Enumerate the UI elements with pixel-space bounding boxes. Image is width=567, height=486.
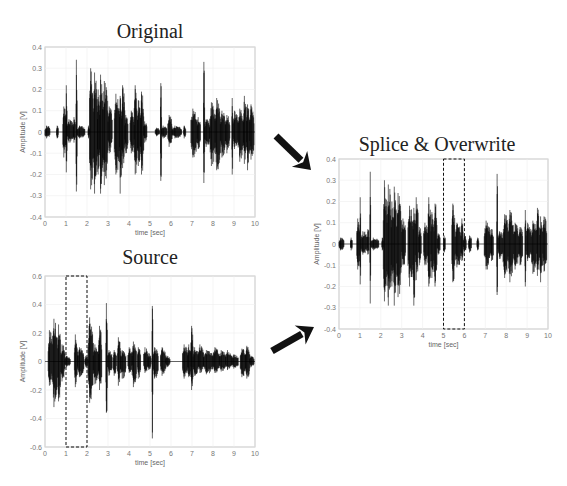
plot-original: 0123456789100.40.30.20.10-0.1-0.2-0.3-0.… [19,44,259,238]
x-tick-label: 1 [64,450,68,457]
x-tick-label: 9 [232,220,236,227]
y-tick-label: 0.1 [326,219,336,226]
x-axis-label: time [sec] [135,229,165,237]
y-tick-label: -0.6 [30,444,42,451]
y-tick-label: -0.4 [30,415,42,422]
y-tick-label: -0.1 [30,150,42,157]
plot-source: 0123456789100.60.40.20-0.2-0.4-0.6time [… [19,273,259,468]
x-tick-label: 1 [358,332,362,339]
y-tick-label: -0.1 [324,262,336,269]
x-tick-label: 7 [190,450,194,457]
x-tick-label: 4 [127,220,131,227]
x-tick-label: 6 [169,220,173,227]
figure: Original Source Splice & Overwrite 01234… [0,0,567,486]
y-tick-label: -0.3 [324,304,336,311]
y-tick-label: -0.4 [30,214,42,221]
x-tick-label: 9 [525,332,529,339]
x-tick-label: 0 [337,332,341,339]
x-axis-label: time [sec] [135,459,165,467]
x-tick-label: 10 [251,450,259,457]
x-tick-label: 10 [544,332,552,339]
y-tick-label: 0.6 [32,273,42,280]
y-tick-label: 0.4 [32,301,42,308]
y-tick-label: 0.4 [326,156,336,163]
y-tick-label: 0.2 [32,330,42,337]
x-tick-label: 9 [232,450,236,457]
x-tick-label: 4 [127,450,131,457]
y-tick-label: 0.2 [326,198,336,205]
x-tick-label: 3 [106,220,110,227]
y-axis-label: Amplitude [V] [19,111,27,153]
x-tick-label: 3 [106,450,110,457]
x-tick-label: 5 [442,332,446,339]
x-tick-label: 2 [85,450,89,457]
x-tick-label: 1 [64,220,68,227]
y-tick-label: 0.1 [32,107,42,114]
y-tick-label: -0.2 [324,283,336,290]
x-tick-label: 8 [504,332,508,339]
y-tick-label: 0 [38,358,42,365]
arrow-source-to-splice-icon [272,325,314,351]
plot-splice: 0123456789100.40.30.20.10-0.1-0.2-0.3-0.… [313,156,552,350]
y-tick-label: 0.3 [326,177,336,184]
x-tick-label: 3 [400,332,404,339]
x-tick-label: 0 [43,220,47,227]
x-tick-label: 0 [43,450,47,457]
y-tick-label: -0.2 [30,171,42,178]
y-tick-label: 0 [38,129,42,136]
x-tick-label: 4 [421,332,425,339]
plots-canvas: 0123456789100.40.30.20.10-0.1-0.2-0.3-0.… [0,0,567,486]
y-tick-label: 0.3 [32,65,42,72]
x-tick-label: 5 [148,450,152,457]
x-axis-label: time [sec] [429,341,459,349]
x-tick-label: 2 [379,332,383,339]
y-tick-label: 0 [332,241,336,248]
x-tick-label: 5 [148,220,152,227]
x-tick-label: 8 [211,220,215,227]
y-tick-label: -0.2 [30,387,42,394]
y-tick-label: 0.4 [32,44,42,51]
x-tick-label: 10 [251,220,259,227]
x-tick-label: 2 [85,220,89,227]
x-tick-label: 8 [211,450,215,457]
x-tick-label: 7 [190,220,194,227]
x-tick-label: 6 [462,332,466,339]
y-axis-label: Amplitude [V] [19,341,27,383]
arrow-original-to-splice-icon [276,136,311,170]
y-axis-label: Amplitude [V] [313,223,321,265]
y-tick-label: -0.4 [324,326,336,333]
x-tick-label: 6 [169,450,173,457]
x-tick-label: 7 [483,332,487,339]
y-tick-label: -0.3 [30,192,42,199]
y-tick-label: 0.2 [32,86,42,93]
